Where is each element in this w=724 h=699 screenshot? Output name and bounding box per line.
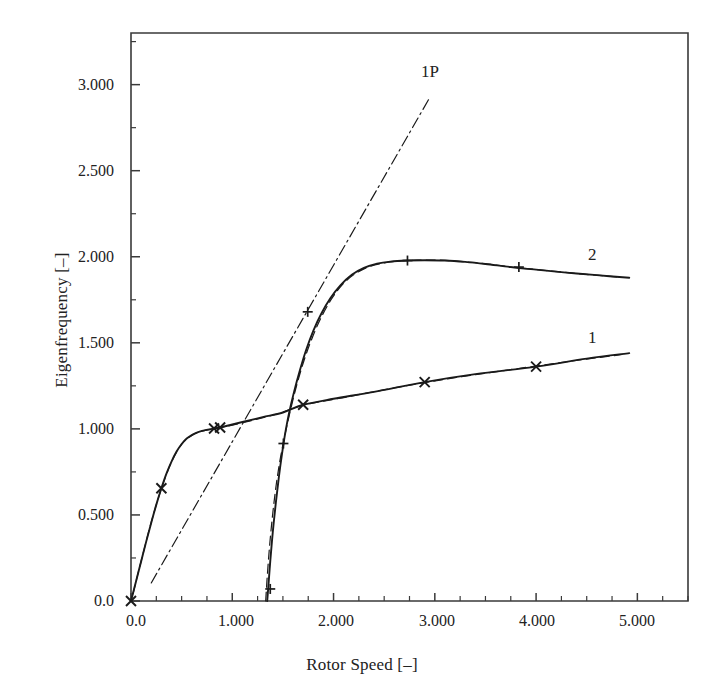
curve-label-2: 2: [588, 245, 597, 265]
curve-label-1p: 1P: [421, 62, 439, 82]
x-tick-label: 0.0: [96, 612, 176, 630]
x-tick-label: 5.000: [597, 612, 677, 630]
x-axis-ticks: [131, 593, 688, 601]
y-tick-label: 0.500: [34, 506, 114, 524]
x-tick-label: 3.000: [397, 612, 477, 630]
y-tick-label: 1.000: [34, 420, 114, 438]
series-line-2-dashed-overlay: [266, 260, 619, 601]
data-marker-x-1: [156, 483, 166, 493]
y-tick-label: 2.500: [34, 162, 114, 180]
eigenfrequency-chart-figure: 3.000 2.500 2.000 1.500 1.000 0.500 0.0 …: [0, 0, 724, 699]
x-tick-label: 2.000: [296, 612, 376, 630]
series-line-2: [267, 260, 629, 601]
data-marker-+-2: [278, 439, 288, 449]
y-tick-label: 0.0: [34, 592, 114, 610]
y-tick-label: 2.000: [34, 248, 114, 266]
data-marker-+-2: [303, 307, 313, 317]
curve-label-1: 1: [588, 328, 597, 348]
x-tick-label: 1.000: [196, 612, 276, 630]
data-marker-+-2: [402, 256, 412, 266]
y-axis-ticks: [131, 42, 140, 601]
axis-frame: [131, 33, 688, 601]
data-marker-layer: [126, 256, 541, 606]
y-tick-label: 3.000: [34, 76, 114, 94]
data-series-layer: [131, 97, 629, 601]
data-marker-+-2: [514, 262, 524, 272]
x-tick-label: 4.000: [497, 612, 577, 630]
series-line-1P: [151, 97, 430, 583]
y-tick-label: 1.500: [34, 334, 114, 352]
x-axis-title: Rotor Speed [–]: [0, 655, 724, 675]
y-axis-title: Eigenfrequency [–]: [52, 170, 72, 470]
